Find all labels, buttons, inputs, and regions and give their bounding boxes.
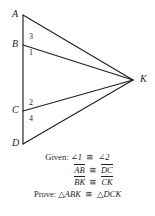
geometry-proof-figure: A B C D K 3 1 2 4 Given: ∠1 ≅ ∠2 AB ≅ DC… bbox=[0, 0, 155, 216]
angle-label-2: 2 bbox=[29, 99, 33, 107]
congruent-symbol-2: ≅ bbox=[87, 165, 99, 175]
diagram-canvas bbox=[0, 0, 155, 155]
vertex-label-k: K bbox=[140, 74, 147, 84]
given-keyword: Given: bbox=[45, 152, 68, 162]
proof-line-bk-ck: BK ≅ CK bbox=[0, 176, 155, 189]
angle-label-3: 3 bbox=[29, 33, 33, 41]
angle-label-4: 4 bbox=[29, 115, 33, 123]
congruent-symbol-3: ≅ bbox=[87, 177, 99, 187]
angle-label-1: 1 bbox=[29, 49, 33, 57]
given-angle-1: ∠1 bbox=[71, 152, 82, 162]
proof-line-prove: Prove: △ABK ≅ △DCK bbox=[0, 189, 155, 201]
proof-line-ab-dc: AB ≅ DC bbox=[0, 164, 155, 177]
congruent-symbol-1: ≅ bbox=[84, 152, 96, 162]
segment-bk-label: BK bbox=[74, 176, 85, 187]
vertex-label-a: A bbox=[12, 9, 18, 19]
prove-keyword: Prove: bbox=[34, 189, 56, 199]
vertex-label-c: C bbox=[12, 105, 19, 115]
segment-CK bbox=[23, 80, 133, 111]
segment-AK bbox=[23, 15, 133, 80]
segment-ck-label: CK bbox=[101, 176, 112, 187]
given-angle-2: ∠2 bbox=[98, 152, 109, 162]
diagram-segments bbox=[23, 15, 133, 144]
vertex-label-d: D bbox=[12, 138, 19, 148]
segment-BK bbox=[23, 45, 133, 80]
proof-line-given-angles: Given: ∠1 ≅ ∠2 bbox=[0, 152, 155, 164]
segment-DK bbox=[23, 80, 133, 144]
triangle-abk-label: △ABK bbox=[58, 189, 81, 199]
triangle-dck-label: △DCK bbox=[97, 189, 121, 199]
segment-ab-label: AB bbox=[74, 164, 84, 175]
proof-statement-block: Given: ∠1 ≅ ∠2 AB ≅ DC BK ≅ CK Prove: △A… bbox=[0, 152, 155, 200]
vertex-label-b: B bbox=[12, 39, 18, 49]
segment-dc-label: DC bbox=[101, 164, 113, 175]
congruent-symbol-4: ≅ bbox=[83, 189, 95, 199]
